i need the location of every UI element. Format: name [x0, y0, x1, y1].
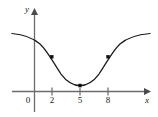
marked-point-x5-minimum: [78, 84, 81, 87]
x-tick-label-2: 2: [45, 96, 59, 105]
function-curve: [12, 34, 150, 86]
x-axis-label: x: [145, 96, 149, 105]
y-axis-arrowhead: [31, 8, 38, 15]
x-axis-arrowhead: [144, 88, 151, 95]
marked-point-x8: [106, 55, 109, 58]
x-tick-label-8: 8: [101, 96, 115, 105]
x-tick-label-5: 5: [73, 96, 87, 105]
graph-figure: 0 2 5 8 x y: [0, 0, 158, 117]
marked-point-x2: [50, 55, 53, 58]
y-axis-label: y: [25, 5, 29, 14]
origin-label: 0: [21, 96, 35, 105]
